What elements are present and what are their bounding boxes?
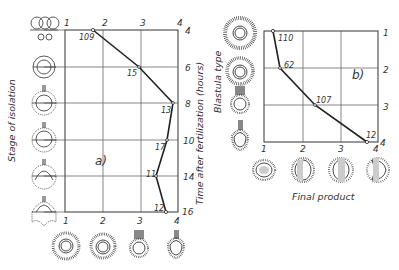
b-y-tick: 3 — [383, 102, 389, 112]
b-y-tick: 2 — [383, 65, 389, 75]
b-point-label: 107 — [316, 96, 332, 105]
b-y-tick: 1 — [383, 28, 389, 38]
a-y-tick: 8 — [185, 99, 191, 109]
chart-b-grid — [264, 31, 378, 142]
figure: 109 15 13 17 11 12 1 2 3 4 1 2 3 4 4 6 8… — [0, 0, 399, 270]
x-axis-title-final-product: Final product — [292, 191, 356, 202]
y-axis-title-time: Time after fertilization (hours) — [194, 62, 205, 205]
a-point-label: 17 — [155, 143, 166, 152]
a-point-label: 12 — [154, 204, 164, 213]
b-point-label: 62 — [284, 61, 294, 70]
final-product-4-icon — [367, 158, 389, 182]
blastula-type-1-icon — [53, 233, 79, 259]
a-x-tick-top: 3 — [140, 18, 146, 28]
blastula-type-1-icon — [225, 18, 255, 48]
y-axis-title-stage: Stage of isolation — [6, 79, 17, 162]
8-cell-stage-icon — [30, 17, 59, 40]
early-blastula-icon — [33, 56, 56, 78]
a-point-label: 11 — [146, 170, 156, 179]
a-point-label: 109 — [79, 33, 94, 42]
blastula-type-4-icon — [232, 120, 248, 150]
y-axis-title-blastula-type: Blastula type — [212, 50, 223, 113]
gastrula-icon — [32, 196, 56, 226]
a-x-tick-top: 1 — [64, 18, 70, 28]
blastula-type-3-icon — [130, 230, 148, 257]
blastula-type-2-icon — [227, 58, 253, 84]
a-y-tick: 14 — [183, 172, 195, 182]
chart-b-markers — [271, 29, 368, 143]
a-y-tick: 4 — [185, 26, 191, 36]
blastula-type-3-icon — [231, 86, 249, 113]
b-point-label: 12 — [366, 131, 376, 140]
a-point-label: 13 — [161, 106, 171, 115]
a-y-tick: 16 — [182, 207, 194, 217]
final-product-2-icon — [292, 158, 314, 182]
b-x-tick: 4 — [373, 144, 379, 154]
chart-b-curve — [273, 31, 367, 142]
panel-label-a: a) — [95, 154, 107, 168]
a-point-label: 15 — [127, 69, 137, 78]
a-y-tick: 10 — [183, 136, 195, 146]
b-x-tick: 3 — [338, 144, 344, 154]
a-x-tick: 2 — [100, 216, 106, 226]
b-point-label: 110 — [278, 34, 293, 43]
a-x-tick-top: 2 — [102, 18, 108, 28]
chart-b: 110 62 107 12 1 2 3 4 1 2 3 4 b) Blastul… — [212, 18, 389, 202]
chart-a: 109 15 13 17 11 12 1 2 3 4 1 2 3 4 4 6 8… — [6, 17, 205, 259]
early-gastrula-icon — [32, 159, 56, 189]
blastula-type-4-icon — [168, 230, 184, 258]
late-blastula-icon — [32, 122, 56, 152]
final-product-3-icon — [329, 158, 353, 182]
b-x-tick: 2 — [300, 144, 306, 154]
a-x-tick-top: 4 — [177, 18, 183, 28]
a-x-tick: 1 — [63, 216, 69, 226]
a-x-tick: 4 — [174, 216, 180, 226]
panel-label-b: b) — [352, 68, 364, 82]
b-y-tick: 4 — [380, 138, 386, 148]
final-product-1-icon — [253, 160, 275, 180]
blastula-type-2-icon — [91, 234, 115, 258]
chart-a-curve — [93, 30, 173, 212]
a-x-tick: 3 — [137, 216, 143, 226]
b-x-tick: 1 — [261, 144, 267, 154]
a-y-tick: 6 — [185, 63, 191, 73]
blastula-icon — [32, 85, 56, 115]
chart-a-markers — [91, 28, 174, 213]
